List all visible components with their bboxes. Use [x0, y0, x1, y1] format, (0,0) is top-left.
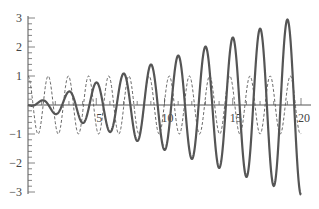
chart: −3−2−11235101520 [0, 0, 319, 209]
y-tick-label: 1 [16, 69, 22, 83]
x-tick-label: 10 [162, 111, 174, 125]
y-tick-label: 2 [16, 40, 22, 54]
axes: −3−2−11235101520 [9, 11, 311, 199]
y-tick-label: 3 [16, 11, 22, 25]
x-tick-label: 20 [298, 111, 310, 125]
y-tick-label: −3 [9, 185, 22, 199]
y-tick-label: −2 [9, 156, 22, 170]
y-tick-label: −1 [9, 127, 22, 141]
solid-series [28, 20, 301, 195]
